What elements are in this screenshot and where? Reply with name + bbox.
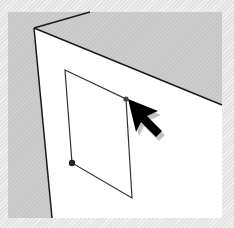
vertex-marker-icon bbox=[69, 160, 75, 166]
vertex-marker-icon bbox=[123, 96, 128, 101]
screenshot-frame bbox=[0, 0, 234, 228]
scene-canvas[interactable] bbox=[0, 0, 234, 228]
